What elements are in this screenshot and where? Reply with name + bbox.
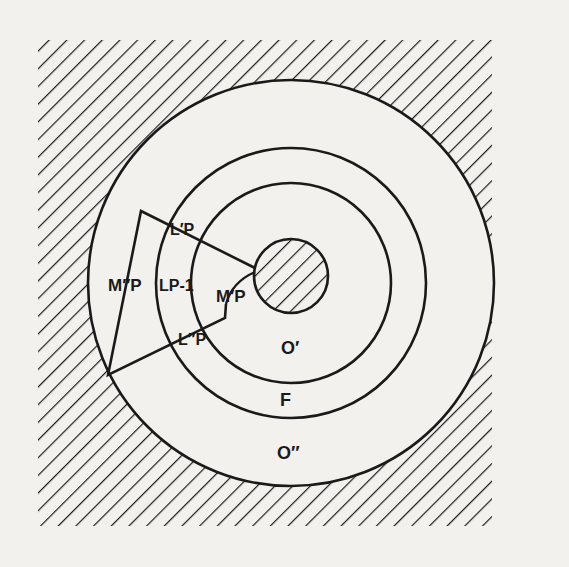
label-f: F	[280, 390, 291, 410]
label-l-prime-p: L′P	[170, 221, 195, 238]
label-o-prime: O′	[281, 338, 299, 358]
label-m-double-prime-p: M″P	[108, 276, 142, 295]
label-m-prime-p: M′P	[216, 287, 246, 306]
label-l-p-minus-1: LP-1	[159, 277, 194, 294]
label-o-double-prime: O″	[277, 443, 300, 463]
concentric-regions-diagram: M″P L′P LP-1 M′P L″P O′ F O″	[0, 0, 569, 567]
label-l-double-prime-p: L″P	[178, 331, 206, 348]
hatched-core-region	[254, 239, 328, 313]
